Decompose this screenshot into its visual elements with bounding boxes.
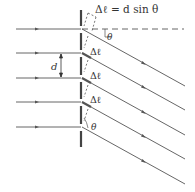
path-difference-construction — [84, 13, 96, 31]
theta-label-bottom: θ — [91, 122, 97, 132]
d-spacing-arrow — [60, 54, 63, 77]
formula-label: Δℓ = d sin θ — [95, 3, 158, 15]
d-label: d — [51, 61, 57, 72]
diffracted-ray-arrowheads — [141, 61, 146, 163]
incoming-rays — [16, 29, 81, 127]
diffraction-grating-diagram: Δℓ = d sin θ θ Δℓ d Δℓ Δℓ θ — [0, 0, 195, 192]
delta-l-label-1: Δℓ — [90, 46, 101, 57]
delta-l-label-2: Δℓ — [90, 70, 101, 81]
theta-label-top: θ — [107, 32, 113, 42]
delta-l-label-3: Δℓ — [90, 94, 101, 105]
angle-arc-bottom — [84, 118, 88, 128]
incoming-ray-arrowheads — [35, 28, 39, 129]
